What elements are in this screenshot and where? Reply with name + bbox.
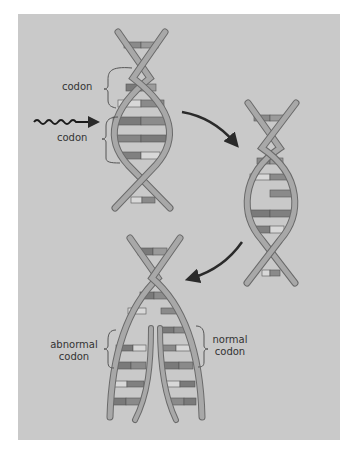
normal-codon-label: normal codon <box>210 334 250 358</box>
curved-arrow-right-down-icon <box>182 112 234 142</box>
dna-helix-1 <box>113 32 170 208</box>
abnormal-codon-label: abnormal codon <box>46 339 102 363</box>
dna-helix-2 <box>246 103 296 283</box>
normal-label-line1: normal <box>210 334 250 346</box>
dna-helix-3-replicating <box>110 238 202 420</box>
dna-mutation-diagram <box>0 0 354 450</box>
radiation-wave-arrow-icon <box>34 120 94 124</box>
normal-label-line2: codon <box>210 346 250 358</box>
curved-arrow-left-down-icon <box>192 242 242 278</box>
codon-label-bottom: codon <box>57 132 87 144</box>
abnormal-label-line1: abnormal <box>46 339 102 351</box>
codon-label-top: codon <box>62 81 92 93</box>
abnormal-label-line2: codon <box>46 351 102 363</box>
